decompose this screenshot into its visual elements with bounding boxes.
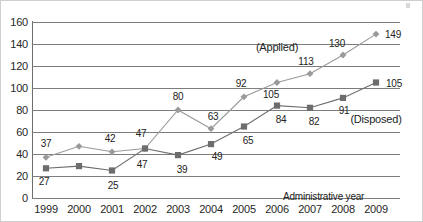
line-chart-figure: 020406080100120140160 374247806392105113…: [0, 0, 423, 222]
value-label-disposed-1999: 27: [39, 176, 50, 187]
x-tick-2009: 2009: [364, 203, 388, 215]
value-label-disposed-2008: 91: [339, 104, 350, 115]
value-label-applied-2006: 105: [263, 88, 279, 99]
data-point-marker: [109, 167, 115, 173]
data-point-marker: [340, 95, 346, 101]
scan-artifact-speck: [406, 3, 410, 8]
value-label-disposed-2005: 65: [243, 134, 254, 145]
series-annotation-applied: (Applied): [256, 41, 298, 53]
plot-area: 3742478063921051131301492725473949658482…: [32, 22, 400, 198]
y-tick-160: 160: [10, 16, 28, 28]
value-label-disposed-2004: 49: [212, 151, 223, 162]
data-point-marker: [241, 123, 247, 129]
value-label-applied-1999: 37: [41, 138, 52, 149]
data-point-marker: [43, 154, 50, 161]
y-tick-0: 0: [22, 192, 28, 204]
x-tick-1999: 1999: [34, 203, 58, 215]
y-tick-80: 80: [16, 104, 28, 116]
value-label-applied-2009: 149: [385, 29, 401, 40]
value-label-disposed-2001: 25: [108, 179, 119, 190]
data-point-marker: [340, 52, 347, 59]
data-point-marker: [43, 165, 49, 171]
x-tick-2007: 2007: [298, 203, 322, 215]
x-axis-title: Administrative year: [283, 191, 364, 202]
value-label-disposed-2009: 105: [386, 77, 402, 88]
data-point-marker: [373, 31, 380, 38]
y-tick-120: 120: [10, 60, 28, 72]
data-point-marker: [175, 152, 181, 158]
series-annotation-disposed: (Disposed): [350, 113, 401, 125]
data-point-marker: [373, 79, 379, 85]
value-label-applied-2008: 130: [329, 38, 345, 49]
x-tick-2004: 2004: [199, 203, 223, 215]
series-line-applied: [46, 34, 376, 157]
value-label-applied-2002: 47: [136, 127, 147, 138]
value-label-applied-2005: 92: [236, 77, 247, 88]
x-tick-2006: 2006: [265, 203, 289, 215]
data-point-marker: [274, 79, 281, 86]
data-point-marker: [109, 148, 116, 155]
value-label-disposed-2002: 47: [137, 158, 148, 169]
x-tick-2008: 2008: [331, 203, 355, 215]
x-tick-2005: 2005: [232, 203, 256, 215]
y-tick-100: 100: [10, 82, 28, 94]
data-point-marker: [307, 105, 313, 111]
data-point-marker: [76, 163, 82, 169]
x-tick-2000: 2000: [67, 203, 91, 215]
data-point-marker: [274, 103, 280, 109]
data-point-marker: [142, 145, 148, 151]
value-label-applied-2007: 113: [298, 55, 313, 66]
y-tick-60: 60: [16, 126, 28, 138]
y-tick-40: 40: [16, 148, 28, 160]
x-tick-2002: 2002: [133, 203, 157, 215]
data-point-marker: [76, 143, 83, 150]
data-point-marker: [307, 70, 314, 77]
value-label-disposed-2003: 39: [177, 164, 188, 175]
value-label-applied-2001: 42: [105, 132, 116, 143]
x-tick-2001: 2001: [100, 203, 124, 215]
x-axis-tick-labels: 1999200020012002200320042005200620072008…: [32, 203, 400, 219]
value-label-applied-2004: 63: [208, 110, 219, 121]
value-label-disposed-2007: 82: [309, 115, 320, 126]
data-point-marker: [208, 141, 214, 147]
value-label-disposed-2006: 84: [276, 113, 287, 124]
y-axis-tick-labels: 020406080100120140160: [1, 22, 28, 198]
x-tick-2003: 2003: [166, 203, 190, 215]
y-tick-20: 20: [16, 170, 28, 182]
value-label-applied-2003: 80: [173, 91, 184, 102]
y-tick-140: 140: [10, 38, 28, 50]
